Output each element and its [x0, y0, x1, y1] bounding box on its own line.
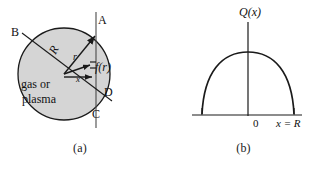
function-label-fr: f(r) — [95, 61, 111, 73]
point-label-b: B — [11, 26, 19, 38]
point-label-d: D — [104, 86, 113, 98]
x-tick-label: x = R — [276, 118, 301, 129]
region-label-line2: plasma — [22, 93, 56, 105]
point-label-a: A — [98, 14, 107, 26]
figure-container: A B C D R r x f(r) gas or plasma (a) Q(x… — [0, 0, 319, 169]
radius-label-r: r — [73, 52, 77, 62]
point-label-c: C — [92, 108, 100, 120]
caption-panel-b: (b) — [164, 141, 319, 156]
y-axis-label: Q(x) — [239, 6, 261, 18]
panel-a-drawing — [0, 0, 160, 140]
region-label-line1: gas or — [21, 78, 50, 90]
panel-a: A B C D R r x f(r) gas or plasma (a) — [0, 0, 160, 169]
caption-panel-a: (a) — [0, 141, 160, 156]
panel-b: Q(x) 0 x = R (b) — [160, 0, 319, 169]
origin-label: 0 — [253, 118, 259, 129]
distance-label-x: x — [76, 75, 80, 84]
